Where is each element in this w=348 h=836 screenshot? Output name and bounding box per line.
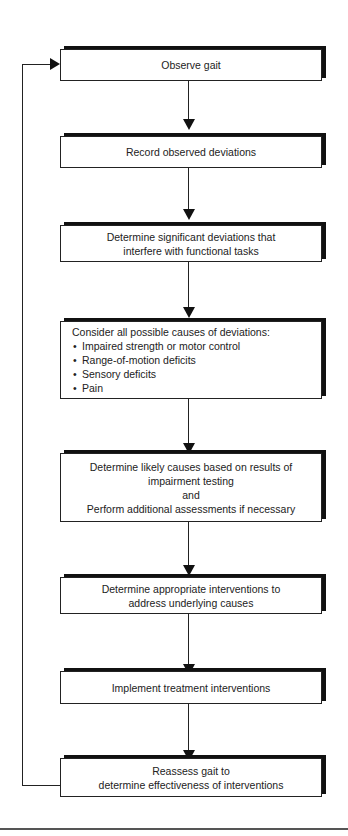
arrow-down-icon [183,119,195,130]
step-label-line2: interfere with functional tasks [123,244,258,258]
step-determine-interventions: Determine appropriate interventions to a… [60,577,322,614]
step-record-deviations: Record observed deviations [60,136,322,168]
connector-line [188,168,189,210]
feedback-loop-top-line [22,64,52,65]
connector-line [188,399,189,445]
step-label: Observe gait [161,58,221,72]
step-label-line4: Perform additional assessments if necess… [87,502,295,516]
step-label-line3: and [182,488,200,502]
step-label-line2: determine effectiveness of interventions [99,778,284,792]
step-label: Record observed deviations [126,145,256,159]
cause-item: Range-of-motion deficits [82,353,240,367]
arrow-down-icon [183,209,195,220]
step-consider-causes: Consider all possible causes of deviatio… [60,321,322,399]
arrow-down-icon [183,565,195,576]
step-implement-treatment: Implement treatment interventions [60,671,322,704]
step-label: Implement treatment interventions [112,681,271,695]
causes-list: Impaired strength or motor control Range… [72,339,240,395]
step-label-line2: address underlying causes [129,596,254,610]
step-label-line1: Determine significant deviations that [107,230,276,244]
cause-item: Pain [82,381,240,395]
step-determine-likely-causes: Determine likely causes based on results… [60,453,322,522]
step-heading: Consider all possible causes of deviatio… [72,325,270,339]
connector-line [188,522,189,566]
step-label-line2: impairment testing [148,474,234,488]
feedback-arrow-icon [50,58,60,70]
connector-line [188,81,189,120]
bottom-rule [0,828,348,830]
arrow-down-icon [183,307,195,318]
feedback-loop-line [22,64,23,786]
cause-item: Sensory deficits [82,367,240,381]
cause-item: Impaired strength or motor control [82,339,240,353]
connector-line [188,704,189,752]
step-reassess-gait: Reassess gait to determine effectiveness… [60,758,322,797]
connector-line [188,262,189,308]
step-label-line1: Determine likely causes based on results… [90,460,293,474]
feedback-loop-bottom-line [22,785,60,786]
step-label-line1: Determine appropriate interventions to [102,582,281,596]
step-label-line1: Reassess gait to [152,764,230,778]
connector-line [188,614,189,666]
step-significant-deviations: Determine significant deviations that in… [60,225,322,262]
step-observe-gait: Observe gait [60,49,322,81]
